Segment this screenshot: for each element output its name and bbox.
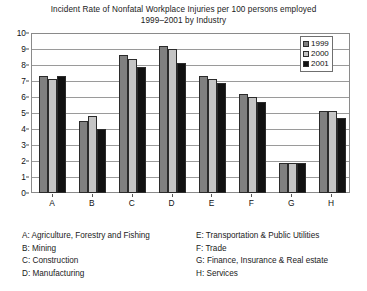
bar-A-2001 [57, 76, 66, 193]
legend-swatch-icon [303, 61, 309, 67]
category-key-item: G: Finance, Insurance & Real estate [196, 255, 356, 268]
category-key-column-2: E: Transportation & Public UtilitiesF: T… [196, 230, 356, 280]
bar-H-1999 [319, 111, 328, 193]
category-key-item: B: Mining [22, 243, 182, 256]
bar-F-2000 [248, 97, 257, 193]
x-tick-label-C: C [129, 198, 135, 208]
bar-D-1999 [159, 46, 168, 193]
category-key-item: C: Construction [22, 255, 182, 268]
bar-A-2000 [48, 79, 57, 193]
x-tick-label-E: E [209, 198, 215, 208]
x-axis: ABCDEFGH [31, 194, 350, 210]
bar-H-2000 [328, 111, 337, 193]
y-tick-mark [26, 33, 29, 34]
y-tick-mark [26, 65, 29, 66]
legend-swatch-icon [303, 51, 309, 57]
x-tick-label-D: D [169, 198, 175, 208]
x-tick-mark [251, 194, 252, 197]
bar-A-1999 [39, 76, 48, 193]
bar-H-2001 [337, 118, 346, 193]
y-tick-mark [26, 129, 29, 130]
bar-F-2001 [257, 102, 266, 193]
bar-E-2001 [217, 83, 226, 193]
legend-label: 2000 [311, 49, 329, 59]
legend-item-2000: 2000 [303, 49, 329, 59]
y-tick-mark [26, 97, 29, 98]
legend-item-2001: 2001 [303, 59, 329, 69]
y-tick-label: 10 [17, 29, 26, 38]
bar-B-2001 [97, 129, 106, 193]
bar-G-1999 [279, 163, 288, 193]
legend-swatch-icon [303, 41, 309, 47]
x-tick-label-H: H [328, 198, 334, 208]
bar-B-2000 [88, 116, 97, 193]
chart-legend: 199920002001 [300, 36, 333, 72]
bar-C-2001 [137, 67, 146, 193]
chart-title-line-2: 1999–2001 by Industry [0, 15, 367, 26]
y-tick-mark [26, 193, 29, 194]
y-tick-mark [26, 81, 29, 82]
bar-D-2001 [177, 63, 186, 193]
legend-item-1999: 1999 [303, 39, 329, 49]
x-tick-mark [52, 194, 53, 197]
x-tick-label-B: B [89, 198, 95, 208]
bar-C-2000 [128, 59, 137, 193]
y-tick-mark [26, 145, 29, 146]
x-tick-mark [291, 194, 292, 197]
bar-E-1999 [199, 76, 208, 193]
y-tick-mark [26, 113, 29, 114]
category-key: A: Agriculture, Forestry and FishingB: M… [22, 230, 362, 280]
x-tick-mark [92, 194, 93, 197]
x-tick-mark [172, 194, 173, 197]
x-tick-mark [132, 194, 133, 197]
chart-title: Incident Rate of Nonfatal Workplace Inju… [0, 4, 367, 26]
x-tick-label-A: A [49, 198, 55, 208]
bar-C-1999 [119, 55, 128, 193]
bar-G-2001 [297, 163, 306, 193]
y-tick-mark [26, 49, 29, 50]
category-key-item: F: Trade [196, 243, 356, 256]
category-key-item: A: Agriculture, Forestry and Fishing [22, 230, 182, 243]
legend-label: 2001 [311, 59, 329, 69]
x-tick-mark [211, 194, 212, 197]
bar-G-2000 [288, 163, 297, 193]
category-key-item: E: Transportation & Public Utilities [196, 230, 356, 243]
legend-label: 1999 [311, 39, 329, 49]
category-key-item: D: Manufacturing [22, 268, 182, 281]
y-axis: 012345678910 [12, 33, 29, 193]
x-tick-label-G: G [288, 198, 295, 208]
bar-E-2000 [208, 79, 217, 193]
category-key-column-1: A: Agriculture, Forestry and FishingB: M… [22, 230, 182, 280]
x-tick-label-F: F [249, 198, 254, 208]
x-tick-mark [331, 194, 332, 197]
bar-F-1999 [239, 94, 248, 193]
chart-title-line-1: Incident Rate of Nonfatal Workplace Inju… [51, 5, 317, 14]
bar-D-2000 [168, 49, 177, 193]
category-key-item: H: Services [196, 268, 356, 281]
bar-B-1999 [79, 121, 88, 193]
chart-container: Incident Rate of Nonfatal Workplace Inju… [0, 0, 367, 291]
y-tick-mark [26, 177, 29, 178]
y-tick-mark [26, 161, 29, 162]
